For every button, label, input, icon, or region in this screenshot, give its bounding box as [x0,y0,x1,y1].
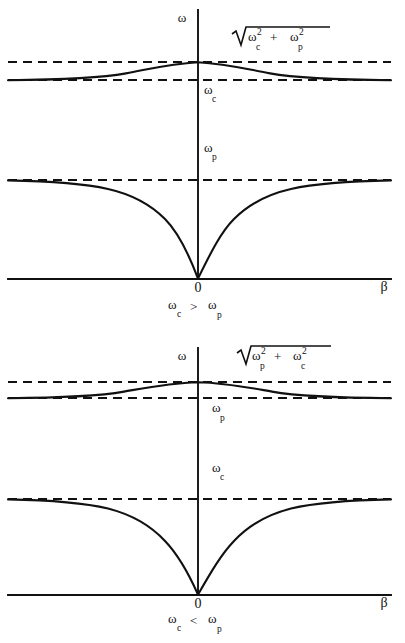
panel-bottom: ω ω p ω c ω 2 p + ω 2 c 0 β ω [0,320,405,643]
panel-top: ω ω c ω p ω 2 c + ω 2 p 0 β ω [0,0,405,320]
radical-sign-icon-top [232,27,246,45]
svg-text:ω: ω [208,611,217,626]
svg-text:c: c [256,42,260,52]
x-axis-label-bottom: β [380,595,387,610]
svg-text:p: p [298,42,303,52]
curve-lower-branch-right-bottom [198,499,391,594]
level-label-omega-p-bottom: ω p [212,400,225,423]
svg-text:c: c [177,309,181,319]
svg-text:2: 2 [302,346,307,356]
svg-text:<: < [190,613,197,628]
caption-bottom: ω c < ω p [168,611,222,634]
svg-text:+: + [270,30,277,45]
svg-text:p: p [220,413,225,423]
level-label-omega-c-bottom: ω c [212,460,224,482]
curve-lower-branch-left-bottom [8,499,198,594]
origin-label-bottom: 0 [195,596,202,611]
svg-text:c: c [212,94,216,104]
svg-text:c: c [220,472,224,482]
svg-text:c: c [301,361,305,371]
svg-text:p: p [212,152,217,162]
origin-label-top: 0 [195,280,202,295]
svg-text:c: c [177,623,181,633]
svg-text:2: 2 [299,27,304,37]
curve-upper-branch-bottom [8,382,391,398]
svg-text:ω: ω [208,297,217,312]
radical-sign-icon-bottom [237,346,251,364]
y-axis-label-top: ω [178,10,187,25]
svg-text:2: 2 [257,27,262,37]
annotation-sqrt-wp2-plus-wc2: ω 2 p + ω 2 c [237,346,331,371]
svg-text:>: > [190,299,197,314]
svg-text:+: + [274,349,281,364]
svg-text:ω: ω [168,297,177,312]
y-axis-label-bottom: ω [178,348,187,363]
curve-lower-branch-right-top [198,180,391,278]
dispersion-figure: ω ω c ω p ω 2 c + ω 2 p 0 β ω [0,0,405,643]
svg-text:ω: ω [168,611,177,626]
caption-top: ω c > ω p [168,297,222,320]
curve-upper-branch-top [8,62,391,80]
svg-text:p: p [217,624,222,634]
level-label-omega-c-top: ω c [204,82,216,104]
curve-lower-branch-left-top [8,180,198,278]
svg-text:p: p [217,310,222,320]
level-label-omega-p-top: ω p [204,140,217,162]
x-axis-label-top: β [380,279,387,294]
svg-text:2: 2 [261,346,266,356]
svg-text:p: p [260,361,265,371]
annotation-sqrt-wc2-plus-wp2: ω 2 c + ω 2 p [232,27,330,52]
